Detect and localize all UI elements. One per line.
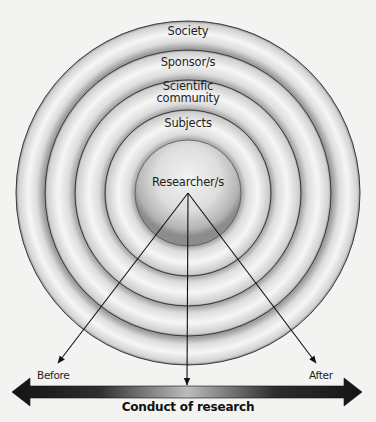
ring-label-subjects: Subjects [164,117,211,129]
timeline-title: Conduct of research [122,400,255,414]
research-ethics-diagram: Society Sponsor/s Scientific community S… [0,0,376,422]
ring-label-scientific-community: Scientific community [156,80,219,104]
timeline-label-before: Before [37,369,70,381]
ring-label-society: Society [168,25,209,37]
core-label-researchers: Researcher/s [152,176,224,188]
timeline-label-after: After [309,369,333,381]
ring-label-sponsors: Sponsor/s [161,56,216,68]
ring-label-community: community [156,92,219,104]
